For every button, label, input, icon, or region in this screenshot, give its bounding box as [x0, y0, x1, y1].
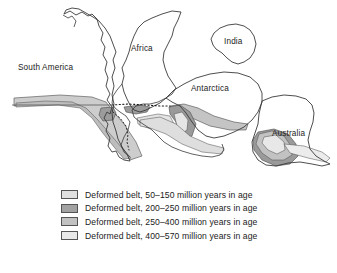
map-label-south-america: South America [18, 63, 73, 72]
legend-row: Deformed belt, 250–400 million years in … [61, 215, 323, 229]
map-svg: South America Africa India Antarctica Au… [0, 0, 337, 186]
map-label-india: India [224, 37, 243, 46]
outline-africa [122, 11, 181, 112]
legend-label-50-150: Deformed belt, 50–150 million years in a… [85, 190, 253, 200]
legend-row: Deformed belt, 400–570 million years in … [61, 229, 323, 243]
belt-south-america-200-250-patch [99, 107, 116, 121]
map-canvas: South America Africa India Antarctica Au… [0, 0, 337, 186]
legend: Deformed belt, 50–150 million years in a… [61, 188, 323, 242]
legend-label-250-400: Deformed belt, 250–400 million years in … [85, 217, 257, 227]
legend-swatch-250-400 [61, 217, 78, 226]
map-label-australia: Australia [272, 129, 306, 138]
legend-swatch-400-570 [61, 231, 78, 240]
map-label-antarctica: Antarctica [191, 84, 229, 93]
map-label-africa: Africa [131, 44, 153, 53]
legend-swatch-50-150 [61, 190, 78, 199]
legend-row: Deformed belt, 50–150 million years in a… [61, 188, 323, 202]
gondwana-deformed-belts-figure: South America Africa India Antarctica Au… [0, 0, 337, 273]
legend-row: Deformed belt, 200–250 million years in … [61, 202, 323, 216]
outline-south-america-inner-detail [63, 15, 76, 27]
legend-label-200-250: Deformed belt, 200–250 million years in … [85, 203, 257, 213]
legend-label-400-570: Deformed belt, 400–570 million years in … [85, 231, 257, 241]
legend-swatch-200-250 [61, 204, 78, 213]
